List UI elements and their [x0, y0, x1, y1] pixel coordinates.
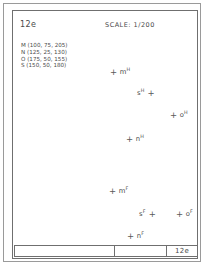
legend-entry: S (150, 50, 180): [21, 62, 68, 69]
survey-point-oh: +oH: [170, 111, 188, 120]
legend-entry: N (125, 25, 130): [21, 49, 68, 56]
cross-marker-icon: +: [149, 209, 156, 219]
survey-point-of: +oF: [176, 210, 193, 219]
cross-marker-icon: +: [109, 186, 116, 196]
survey-point-sf: sF+: [139, 210, 156, 219]
coordinate-legend: M (100, 75, 205) N (125, 25, 130) O (175…: [21, 42, 68, 69]
drawing-area: 12e SCALE: 1/200 M (100, 75, 205) N (125…: [13, 11, 197, 258]
legend-entry: M (100, 75, 205): [21, 42, 68, 49]
survey-point-superscript: F: [190, 209, 193, 214]
survey-point-superscript: H: [140, 134, 144, 139]
title-block-cell-left: [14, 245, 115, 257]
survey-point-nh: +nH: [126, 135, 144, 144]
title-block-cell-right: 12e: [166, 245, 198, 257]
cross-marker-icon: +: [110, 67, 117, 77]
survey-point-superscript: H: [126, 67, 130, 72]
scale-label: SCALE: 1/200: [105, 21, 155, 29]
survey-point-superscript: H: [184, 110, 188, 115]
title-block-sheet-number: 12e: [175, 247, 189, 255]
cross-marker-icon: +: [126, 134, 133, 144]
cross-marker-icon: +: [148, 88, 155, 98]
drawing-frame: 12e SCALE: 1/200 M (100, 75, 205) N (125…: [12, 10, 198, 259]
survey-point-nf: +nF: [127, 232, 144, 241]
cross-marker-icon: +: [176, 209, 183, 219]
survey-point-superscript: F: [141, 231, 144, 236]
drawing-sheet: 12e SCALE: 1/200 M (100, 75, 205) N (125…: [3, 3, 201, 262]
survey-point-mf: +mF: [109, 187, 128, 196]
cross-marker-icon: +: [170, 110, 177, 120]
survey-point-superscript: H: [141, 88, 145, 93]
cross-marker-icon: +: [127, 231, 134, 241]
survey-point-mh: +mH: [110, 68, 130, 77]
legend-entry: O (175, 50, 155): [21, 56, 68, 63]
survey-point-superscript: F: [143, 209, 146, 214]
survey-point-superscript: F: [125, 186, 128, 191]
sheet-id-label: 12e: [20, 20, 36, 29]
title-block: 12e: [14, 245, 198, 257]
survey-point-sh: sH+: [137, 89, 155, 98]
title-block-cell-middle: [114, 245, 167, 257]
